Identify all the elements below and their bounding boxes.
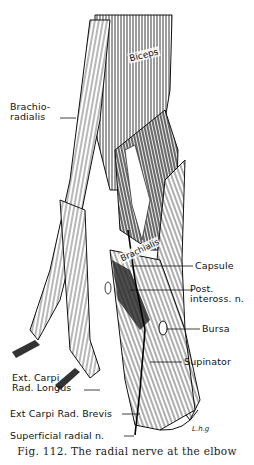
- figure-caption: Fig. 112. The radial nerve at the elbow: [0, 445, 254, 457]
- anatomy-illustration: Biceps Brachio- radialis Brachialis Caps…: [0, 0, 254, 440]
- label-supinator: Supinator: [184, 357, 231, 367]
- label-capsule: Capsule: [195, 261, 234, 271]
- label-brachioradialis: Brachio- radialis: [10, 102, 50, 122]
- label-ext-carpi-rad-brevis: Ext Carpi Rad. Brevis: [10, 409, 112, 419]
- label-post-inteross-n: Post. inteross. n.: [190, 284, 244, 304]
- label-superficial-radial-n: Superficial radial n.: [10, 431, 104, 441]
- artist-signature: L.h.g: [192, 425, 209, 433]
- label-bursa: Bursa: [202, 324, 230, 334]
- label-ext-carpi-rad-longus: Ext. Carpi Rad. Longus: [12, 373, 71, 393]
